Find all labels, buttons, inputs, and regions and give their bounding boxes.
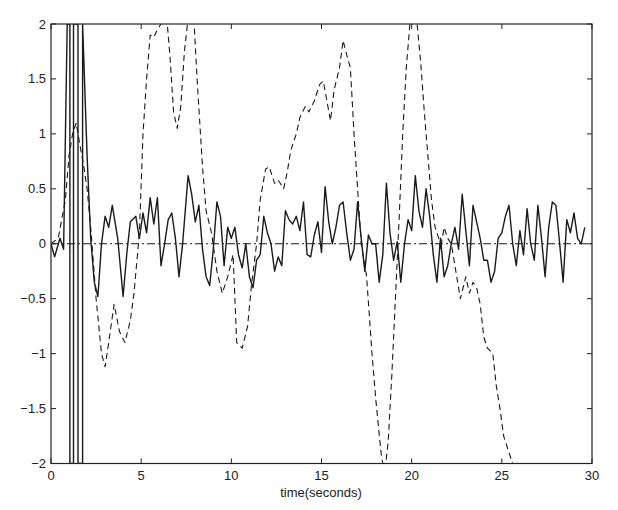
- y-tick-label: 2: [39, 17, 46, 32]
- y-tick-label: 0.5: [28, 181, 46, 196]
- x-axis: 051015202530: [47, 24, 599, 483]
- line-chart: 051015202530 −2−1.5−1−0.500.511.52 time(…: [0, 0, 618, 510]
- y-tick-label: 1: [39, 126, 46, 141]
- x-tick-label: 30: [585, 468, 599, 483]
- x-tick-label: 10: [224, 468, 238, 483]
- x-axis-label: time(seconds): [280, 485, 362, 500]
- x-tick-label: 25: [495, 468, 509, 483]
- plot-area: [51, 0, 592, 475]
- y-tick-label: −1: [31, 346, 46, 361]
- y-tick-label: −0.5: [20, 291, 46, 306]
- y-tick-label: 1.5: [28, 71, 46, 86]
- y-tick-label: 0: [39, 236, 46, 251]
- y-tick-label: −1.5: [20, 401, 46, 416]
- x-tick-label: 0: [47, 468, 54, 483]
- y-tick-label: −2: [31, 456, 46, 471]
- series-line-dashed: [51, 0, 515, 475]
- x-tick-label: 5: [138, 468, 145, 483]
- x-tick-label: 20: [404, 468, 418, 483]
- x-tick-label: 15: [314, 468, 328, 483]
